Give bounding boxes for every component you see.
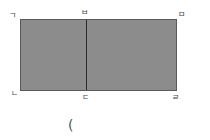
vertex-label-bottom-right: ㄹ bbox=[172, 94, 179, 102]
answer-parenthesis: ( bbox=[68, 118, 73, 132]
vertex-label-top-right: ㅁ bbox=[178, 11, 185, 19]
divider-line-bd bbox=[86, 20, 87, 90]
vertex-label-bottom-left: ㄴ bbox=[11, 90, 18, 98]
vertex-label-bottom-middle: ㄷ bbox=[82, 94, 89, 102]
shaded-rectangle bbox=[20, 19, 177, 91]
vertex-label-top-left: ㄱ bbox=[9, 12, 16, 20]
vertex-label-top-middle: ㅂ bbox=[81, 9, 88, 17]
